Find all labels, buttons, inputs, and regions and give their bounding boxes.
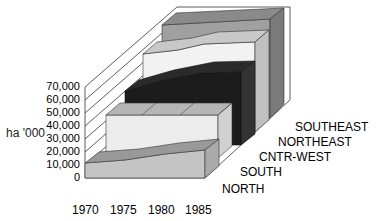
ytick: 20,000 (46, 145, 80, 157)
ytick: 70,000 (46, 80, 80, 92)
xtick: 1985 (185, 203, 212, 217)
depth-label-north: NORTH (222, 182, 264, 196)
depth-label-northeast: NORTHEAST (278, 135, 352, 149)
ytick: 50,000 (46, 106, 80, 118)
xtick: 1980 (148, 203, 175, 217)
depth-label-southeast: SOUTHEAST (295, 120, 368, 134)
ytick: 60,000 (46, 93, 80, 105)
xtick: 1970 (72, 203, 99, 217)
y-axis-label: ha '000 (6, 126, 45, 140)
ytick: 0 (46, 171, 80, 183)
ytick: 40,000 (46, 119, 80, 131)
ytick: 30,000 (46, 132, 80, 144)
depth-label-cntr-west: CNTR-WEST (259, 150, 331, 164)
depth-label-south: SOUTH (240, 165, 282, 179)
ytick: 10,000 (46, 158, 80, 170)
xtick: 1975 (110, 203, 137, 217)
